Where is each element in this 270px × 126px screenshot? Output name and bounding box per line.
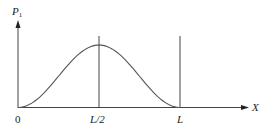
probability-density-chart: P1 X 0 L/2 L <box>0 0 270 126</box>
chart-canvas <box>0 0 270 126</box>
x-tick-0: 0 <box>15 114 21 125</box>
x-axis-label: X <box>252 102 259 113</box>
x-tick-L: L <box>177 114 183 125</box>
y-axis-label: P1 <box>12 6 22 19</box>
y-axis-arrow-icon <box>16 20 21 28</box>
x-axis-arrow-icon <box>241 105 249 110</box>
x-tick-half-L: L/2 <box>90 114 105 125</box>
